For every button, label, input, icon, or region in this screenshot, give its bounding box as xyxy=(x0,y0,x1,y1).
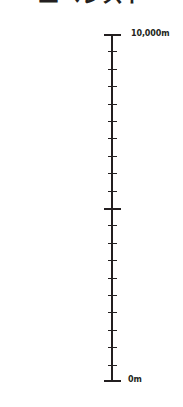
page-title-clip: エベレスト xyxy=(0,0,183,7)
scale-label-top: 10,000m xyxy=(131,29,170,38)
scale-tick-minor xyxy=(108,69,117,70)
elevation-scale: 10,000m 0m 8,848m xyxy=(112,34,113,382)
scale-tick-minor xyxy=(108,121,117,122)
scale-tick-minor xyxy=(108,86,117,87)
scale-tick-5000 xyxy=(104,208,121,210)
elevation-scale-infographic: エベレスト 10,000m 0m 8,848m xyxy=(0,0,183,407)
scale-tick-minor xyxy=(108,138,117,139)
scale-tick-minor xyxy=(108,51,117,52)
scale-tick-minor xyxy=(108,278,117,279)
scale-tick-minor xyxy=(108,260,117,261)
scale-tick-minor xyxy=(108,156,117,157)
scale-tick-minor xyxy=(108,104,117,105)
scale-tick-minor xyxy=(108,312,117,313)
scale-tick-minor xyxy=(108,173,117,174)
scale-tick-minor xyxy=(108,225,117,226)
scale-tick-minor xyxy=(108,295,117,296)
scale-tick-minor xyxy=(108,243,117,244)
scale-tick-0 xyxy=(104,380,121,382)
scale-tick-minor xyxy=(108,347,117,348)
scale-label-bottom: 0m xyxy=(128,375,142,384)
scale-tick-10000 xyxy=(104,34,121,36)
scale-tick-minor xyxy=(108,365,117,366)
scale-tick-minor xyxy=(108,330,117,331)
page-title: エベレスト xyxy=(38,0,146,7)
scale-tick-minor xyxy=(108,191,117,192)
